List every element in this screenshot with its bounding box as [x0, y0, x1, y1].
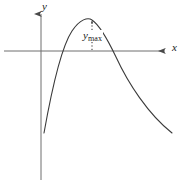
y-axis-label: y	[42, 1, 47, 12]
figure-canvas	[0, 0, 190, 187]
ymax-label: ymax	[82, 30, 103, 41]
parabola-curve	[44, 19, 172, 133]
parabola-figure: y x ymax	[0, 0, 190, 187]
ymax-subscript: max	[88, 34, 102, 43]
x-axis-label: x	[172, 42, 177, 53]
